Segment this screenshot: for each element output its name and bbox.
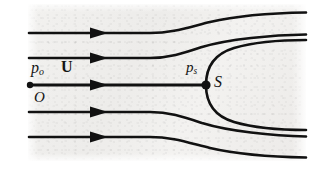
streamline-bottom-outer xyxy=(29,137,306,158)
dividing-streamline-lower-branch xyxy=(206,85,306,130)
flow-arrowhead-3 xyxy=(90,80,108,91)
origin-dot xyxy=(27,82,33,88)
label-free-stream-velocity: U xyxy=(61,59,73,75)
label-stagnation-point: S xyxy=(214,74,222,90)
streamline-top-outer xyxy=(29,13,306,34)
label-stagnation-pressure: ps xyxy=(186,60,197,76)
stagnation-point-dot xyxy=(201,80,210,89)
label-origin: O xyxy=(34,90,45,105)
label-origin-symbol: O xyxy=(34,89,45,105)
label-p-o-symbol: p xyxy=(31,59,39,76)
figure-stagnation-point-flow: po U O ps S xyxy=(0,0,312,176)
label-S-symbol: S xyxy=(214,73,222,90)
label-free-stream-pressure: po xyxy=(31,60,44,77)
flow-arrowhead-1 xyxy=(90,28,108,39)
streamline-lower xyxy=(29,112,306,137)
flow-arrowhead-2 xyxy=(90,53,108,64)
label-p-s-symbol: p xyxy=(186,59,194,75)
flow-arrowhead-5 xyxy=(90,132,108,143)
label-p-o-subscript: o xyxy=(39,66,44,77)
flow-arrowhead-4 xyxy=(90,107,108,118)
label-p-s-subscript: s xyxy=(194,66,198,76)
streamline-upper xyxy=(29,35,306,59)
streamline-plot xyxy=(0,0,312,176)
